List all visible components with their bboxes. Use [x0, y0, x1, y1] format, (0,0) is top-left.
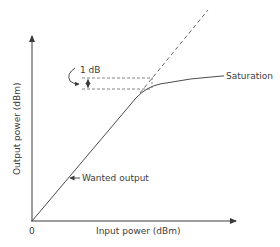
- x-axis-label: Input power (dBm): [96, 226, 181, 236]
- origin-label: 0: [29, 226, 35, 236]
- saturation-label: Saturation: [226, 71, 273, 81]
- compression-label: 1 dB: [80, 65, 100, 75]
- diagram-canvas: [0, 0, 280, 247]
- compression-markers: [82, 78, 153, 89]
- response-curve: [32, 76, 222, 221]
- ideal-linear-extension: [140, 10, 208, 93]
- curved-pointer-arrow-icon: [69, 68, 79, 84]
- y-axis-label: Output power (dBm): [12, 83, 22, 175]
- wanted-output-label: Wanted output: [82, 173, 149, 183]
